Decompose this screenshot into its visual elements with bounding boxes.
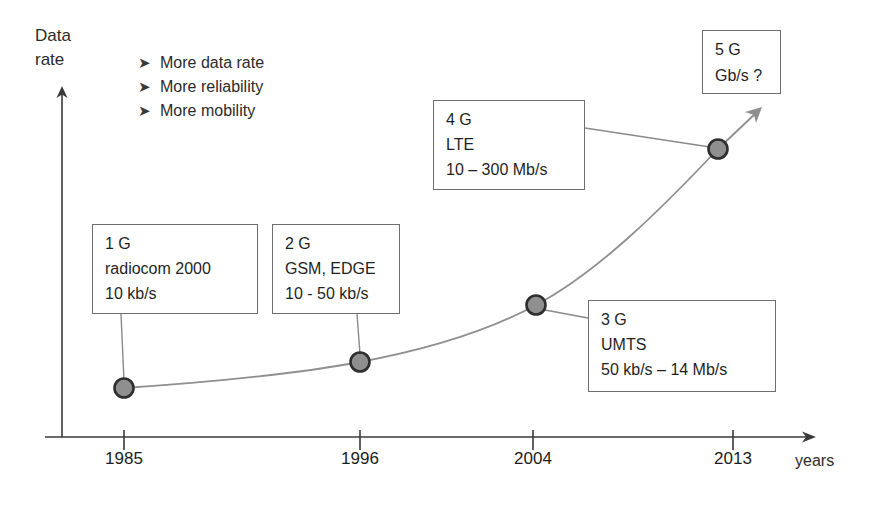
callout-3g-rate: 50 kb/s – 14 Mb/s	[601, 357, 765, 382]
callout-box-1g: 1 G radiocom 2000 10 kb/s	[92, 224, 258, 314]
callout-1g-rate: 10 kb/s	[105, 281, 247, 306]
callout-4g-technology: LTE	[446, 132, 574, 157]
list-item: ➤ More mobility	[138, 102, 358, 126]
arrow-bullet-icon: ➤	[138, 78, 160, 96]
figure-canvas: Data rate years 1985 1996 2004 2013 ➤ Mo…	[0, 0, 880, 511]
list-item: ➤ More reliability	[138, 78, 358, 102]
x-tick-label-1996: 1996	[341, 449, 379, 469]
arrow-bullet-icon: ➤	[138, 54, 160, 72]
callout-1g-technology: radiocom 2000	[105, 256, 247, 281]
leader-2g	[357, 314, 360, 354]
bullet-label: More data rate	[160, 54, 264, 72]
callout-3g-generation: 3 G	[601, 307, 765, 332]
callout-1g-generation: 1 G	[105, 231, 247, 256]
arrow-bullet-icon: ➤	[138, 102, 160, 120]
marker-1985	[115, 379, 134, 398]
x-tick-label-2013: 2013	[714, 449, 752, 469]
callout-box-2g: 2 G GSM, EDGE 10 - 50 kb/s	[272, 224, 400, 314]
marker-2004	[527, 296, 546, 315]
x-axis	[45, 430, 816, 450]
marker-1996	[351, 353, 370, 372]
leader-4g	[585, 128, 710, 147]
bullet-label: More reliability	[160, 78, 263, 96]
y-axis-title: Data rate	[35, 24, 71, 72]
callout-3g-technology: UMTS	[601, 332, 765, 357]
x-tick-label-1985: 1985	[105, 449, 143, 469]
callout-5g-generation: 5 G	[715, 37, 770, 63]
y-axis	[57, 86, 68, 437]
feature-bullet-list: ➤ More data rate ➤ More reliability ➤ Mo…	[138, 54, 358, 126]
callout-2g-technology: GSM, EDGE	[285, 256, 389, 281]
callout-2g-rate: 10 - 50 kb/s	[285, 281, 389, 306]
leader-3g	[545, 310, 588, 318]
bullet-label: More mobility	[160, 102, 255, 120]
marker-2013	[709, 140, 728, 159]
callout-5g-rate: Gb/s ?	[715, 63, 770, 89]
x-tick-label-2004: 2004	[514, 449, 552, 469]
callout-4g-generation: 4 G	[446, 107, 574, 132]
list-item: ➤ More data rate	[138, 54, 358, 78]
callout-box-3g: 3 G UMTS 50 kb/s – 14 Mb/s	[588, 300, 776, 392]
callout-box-5g: 5 G Gb/s ?	[702, 30, 781, 94]
callout-box-4g: 4 G LTE 10 – 300 Mb/s	[433, 100, 585, 190]
leader-1g	[121, 314, 124, 381]
callout-4g-rate: 10 – 300 Mb/s	[446, 157, 574, 182]
x-axis-title: years	[795, 449, 834, 473]
callout-2g-generation: 2 G	[285, 231, 389, 256]
